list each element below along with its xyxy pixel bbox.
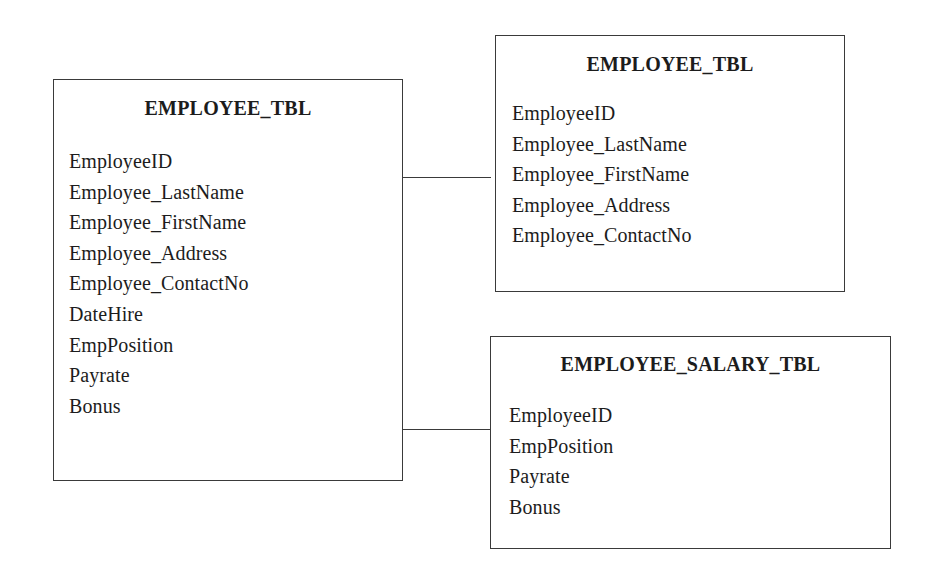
field-list: EmployeeID Employee_LastName Employee_Fi…: [69, 146, 249, 421]
field-employee-firstname: Employee_FirstName: [69, 207, 249, 238]
field-payrate: Payrate: [509, 461, 613, 492]
field-employee-id: EmployeeID: [69, 146, 249, 177]
field-bonus: Bonus: [509, 492, 613, 523]
field-employee-lastname: Employee_LastName: [69, 177, 249, 208]
field-employee-contactno: Employee_ContactNo: [69, 268, 249, 299]
field-empposition: EmpPosition: [69, 330, 249, 361]
field-list: EmployeeID EmpPosition Payrate Bonus: [509, 400, 613, 522]
field-bonus: Bonus: [69, 391, 249, 422]
field-employee-address: Employee_Address: [512, 190, 692, 221]
field-list: EmployeeID Employee_LastName Employee_Fi…: [512, 98, 692, 251]
field-datehire: DateHire: [69, 299, 249, 330]
table-title: EMPLOYEE_SALARY_TBL: [491, 354, 890, 374]
table-title: EMPLOYEE_TBL: [54, 98, 402, 118]
field-empposition: EmpPosition: [509, 431, 613, 462]
field-employee-lastname: Employee_LastName: [512, 129, 692, 160]
field-employee-firstname: Employee_FirstName: [512, 159, 692, 190]
field-employee-id: EmployeeID: [512, 98, 692, 129]
table-title: EMPLOYEE_TBL: [496, 54, 844, 74]
connector-line-to-salary-tbl: [403, 429, 490, 430]
field-employee-contactno: Employee_ContactNo: [512, 220, 692, 251]
field-employee-id: EmployeeID: [509, 400, 613, 431]
field-payrate: Payrate: [69, 360, 249, 391]
table-employee-salary-tbl: EMPLOYEE_SALARY_TBL EmployeeID EmpPositi…: [490, 336, 891, 549]
table-employee-tbl-normalized: EMPLOYEE_TBL EmployeeID Employee_LastNam…: [495, 35, 845, 292]
field-employee-address: Employee_Address: [69, 238, 249, 269]
connector-line-to-employee-tbl: [403, 177, 491, 178]
table-employee-tbl-original: EMPLOYEE_TBL EmployeeID Employee_LastNam…: [53, 79, 403, 481]
